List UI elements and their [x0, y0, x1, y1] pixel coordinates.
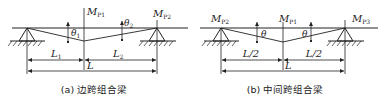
angle-label-theta1: θ1 — [71, 28, 80, 39]
dimension-label-l: L — [284, 60, 292, 71]
dimension-label-l2: L2 — [112, 48, 124, 60]
moment-label-mp1: MP1 — [278, 13, 297, 25]
angle-label-theta-right: θ — [302, 29, 308, 39]
dimension-label-half-right: L/2 — [305, 48, 322, 59]
caption-a: (a) 边跨组合梁 — [61, 84, 127, 95]
angle-label-theta-left: θ — [261, 29, 267, 39]
moment-label-mp2: MP2 — [152, 8, 171, 20]
caption-b: (b) 中间跨组合梁 — [247, 84, 323, 95]
moment-label-mp3: MP3 — [351, 13, 370, 25]
panel-b-middle-span-beam: MP2 MP1 MP3 θ θ L/2 L/2 L (b) 中间跨组合梁 — [200, 13, 378, 95]
dimension-label-l: L — [86, 60, 94, 71]
dimension-label-l1: L1 — [50, 48, 61, 60]
beam-mechanism-diagram: MP1 MP2 θ1 θ2 L1 L2 L (a) 边跨组合梁 — [0, 0, 378, 102]
moment-label-mp2: MP2 — [210, 13, 229, 25]
deflected-shape — [27, 28, 157, 41]
moment-label-mp1: MP1 — [86, 6, 105, 18]
dimension-label-half-left: L/2 — [242, 48, 259, 59]
angle-label-theta2: θ2 — [124, 18, 133, 29]
panel-a-end-span-beam: MP1 MP2 θ1 θ2 L1 L2 L (a) 边跨组合梁 — [8, 6, 188, 95]
